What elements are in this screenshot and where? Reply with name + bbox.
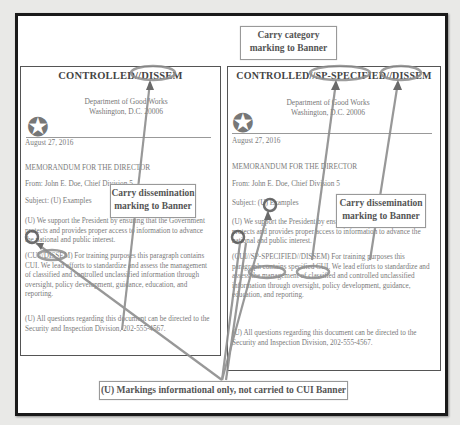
memo-subject: Subject: (U) Examples [232, 198, 298, 207]
paragraph-2: (CUI//SP-SPECIFIED//DISSEM) For training… [232, 253, 432, 301]
dept-name: Department of Good Works [268, 98, 388, 108]
dept-name: Department of Good Works [66, 97, 186, 107]
right-banner: CONTROLLED//SP-SPECIFIED//DISSEM [228, 70, 440, 81]
memo-to: MEMORANDUM FOR THE DIRECTOR [232, 162, 357, 171]
callout-text: marking to Banner [241, 42, 336, 55]
memo-subject: Subject: (U) Examples [25, 196, 91, 205]
left-department: Department of Good Works Washington, D.C… [66, 97, 186, 117]
memo-date: August 27, 2016 [25, 138, 73, 147]
callout-carry-dissem-left: Carry dissemination marking to Banner [110, 184, 196, 218]
paragraph-3: (U) All questions regarding this documen… [232, 329, 432, 348]
callout-text: Carry category [241, 29, 336, 42]
callout-text: Carry dissemination [111, 187, 195, 200]
header-divider [232, 133, 432, 134]
callout-markings-informational: (U) Markings informational only, not car… [99, 381, 348, 400]
dept-address: Washington, D.C. 20006 [66, 107, 186, 117]
memo-from: From: John E. Doe, Chief Division 5 [232, 179, 340, 188]
callout-text: marking to Banner [111, 200, 195, 213]
left-banner: CONTROLLED//DISSEM [21, 70, 220, 81]
memo-date: August 27, 2016 [232, 136, 280, 145]
callout-carry-category: Carry category marking to Banner [240, 26, 337, 60]
paragraph-1: (U) We support the President by ensuring… [25, 217, 213, 246]
callout-text: marking to Banner [337, 210, 425, 223]
memo-to: MEMORANDUM FOR THE DIRECTOR [25, 163, 150, 172]
right-department: Department of Good Works Washington, D.C… [268, 98, 388, 118]
paragraph-2: (CUI//DISSEM) For training purposes this… [25, 252, 213, 300]
paragraph-3: (U) All questions regarding this documen… [25, 315, 213, 334]
dept-address: Washington, D.C. 20006 [268, 108, 388, 118]
callout-text: Carry dissemination [337, 197, 425, 210]
callout-carry-dissem-right: Carry dissemination marking to Banner [336, 194, 426, 228]
